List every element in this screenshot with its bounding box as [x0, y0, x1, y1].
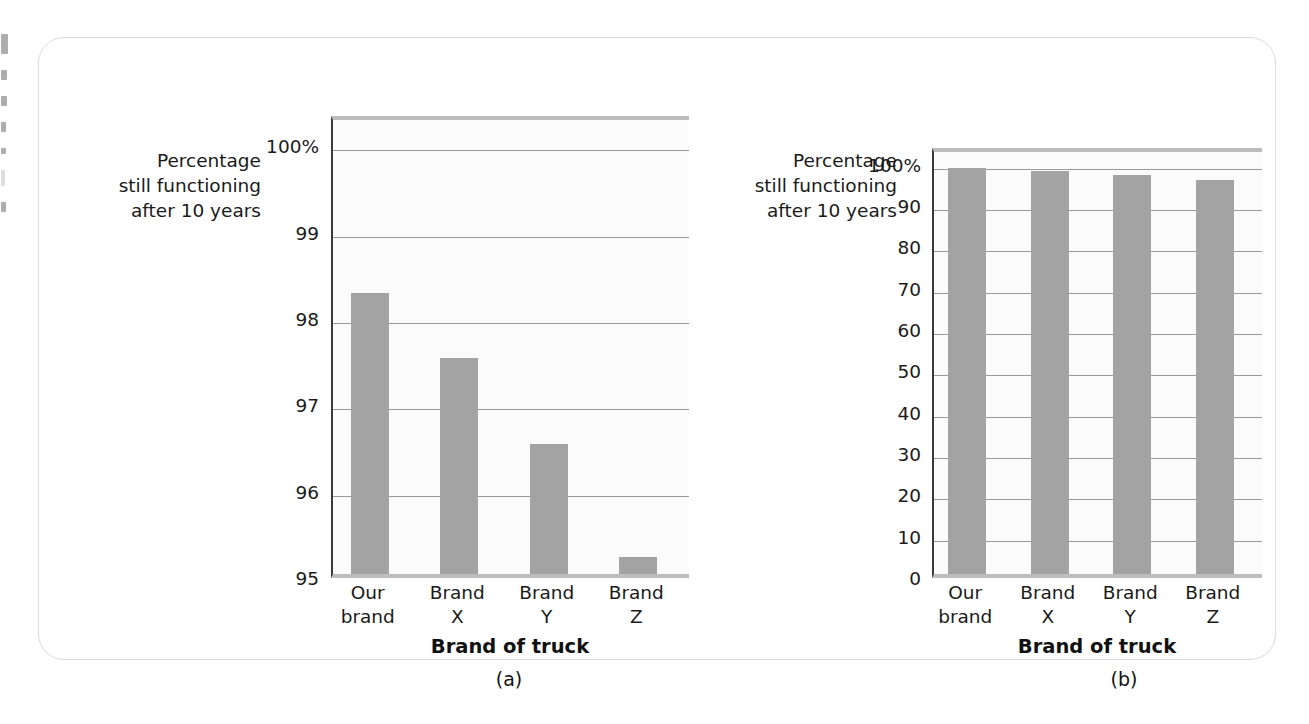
figure-frame: Percentage still functioning after 10 ye…	[38, 37, 1276, 660]
y-tick-label: 70	[799, 278, 921, 299]
y-tick-label: 0	[799, 568, 921, 589]
chart-panel-b: Percentage still functioning after 10 ye…	[39, 38, 1275, 659]
y-tick-label: 60	[799, 319, 921, 340]
y-tick-label: 90	[799, 195, 921, 216]
x-tick-label: Brand Z	[1158, 581, 1268, 629]
panel-caption-b: (b)	[1014, 668, 1234, 690]
x-axis-title-b: Brand of truck	[932, 635, 1262, 658]
y-tick-label: 100%	[799, 154, 921, 175]
panel-caption-a: (a)	[399, 668, 619, 690]
y-tick-label: 20	[799, 485, 921, 506]
y-tick-label: 10	[799, 526, 921, 547]
bar	[948, 168, 986, 574]
y-tick-label: 50	[799, 361, 921, 382]
bars-b	[934, 152, 1262, 574]
y-tick-label: 80	[799, 237, 921, 258]
page-edge-artifact	[0, 34, 9, 284]
y-tick-label: 40	[799, 402, 921, 423]
bar	[1196, 180, 1234, 574]
bar	[1031, 171, 1069, 574]
plot-area-b	[932, 148, 1262, 578]
y-tick-label: 30	[799, 443, 921, 464]
bar	[1113, 175, 1151, 574]
